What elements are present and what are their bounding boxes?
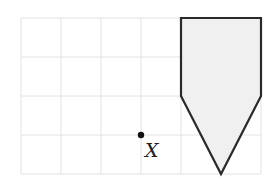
grid-diagram: X [0,0,268,182]
point-x-label: X [143,139,160,161]
point-x-dot [138,132,144,138]
pentagon-shape [181,18,261,174]
